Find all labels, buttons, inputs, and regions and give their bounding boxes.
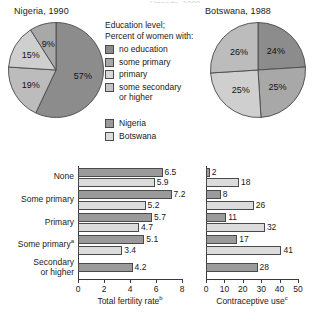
- total-fertility-rate-chart: 024686.55.9None7.25.2Some primary5.74.7P…: [0, 160, 190, 321]
- x-axis-tick: [78, 279, 79, 283]
- bar-value-label: 11: [228, 212, 237, 222]
- bar-value-label: 7.2: [174, 189, 186, 199]
- bar-nigeria: [206, 263, 258, 272]
- bar-value-label: 41: [283, 245, 292, 255]
- legend-item-some-secondary: some secondary or higher: [105, 82, 205, 102]
- swatch-some-secondary-icon: [105, 83, 114, 92]
- swatch-botswana-icon: [105, 132, 114, 141]
- figure-canvas: Uganda, 1988 Nigeria, 1990 Botswana, 198…: [0, 0, 322, 321]
- bar-nigeria: [206, 213, 226, 222]
- swatch-primary-icon: [105, 70, 114, 79]
- x-axis-title: Contraceptive usec: [216, 296, 288, 306]
- legend-item-no-education: no education: [105, 44, 205, 54]
- x-axis-title: Total fertility rateb: [97, 296, 162, 306]
- legend-heading: Education level; Percent of women with:: [105, 20, 205, 41]
- bar-value-label: 5.7: [154, 212, 166, 222]
- pie-slice-label: 24%: [267, 46, 285, 56]
- x-axis-tick-label: 4: [128, 284, 133, 294]
- bar-nigeria: [78, 213, 152, 222]
- x-axis-tick-label: 0: [204, 284, 209, 294]
- legend-label-some-primary: some primary: [119, 57, 170, 67]
- legend-heading-line1: Education level;: [105, 20, 205, 31]
- x-axis-tick: [206, 279, 207, 283]
- bar-nigeria: [206, 190, 221, 199]
- legend-label-primary: primary: [119, 69, 147, 79]
- bar-value-label: 4.7: [141, 222, 153, 232]
- botswana-pie-title: Botswana, 1988: [205, 6, 271, 16]
- bar-value-label: 5.1: [146, 234, 158, 244]
- x-axis-tick: [182, 279, 183, 283]
- botswana-pie-chart: 24%25%25%26%: [210, 22, 306, 118]
- x-axis-tick-label: 10: [220, 284, 229, 294]
- bar-value-label: 3.4: [124, 245, 136, 255]
- bar-nigeria: [78, 263, 133, 272]
- bar-botswana: [78, 201, 146, 210]
- bar-value-label: 6.5: [165, 167, 177, 177]
- nigeria-pie-title: Nigeria, 1990: [14, 6, 69, 16]
- bar-nigeria: [206, 168, 210, 177]
- bar-nigeria: [78, 190, 172, 199]
- legend-label-some-secondary: some secondary or higher: [119, 82, 191, 102]
- bar-botswana: [78, 246, 122, 255]
- category-label: None: [0, 172, 74, 182]
- bar-value-label: 17: [239, 234, 248, 244]
- category-label: Primary: [0, 218, 74, 228]
- bar-botswana: [78, 178, 155, 187]
- bar-value-label: 32: [267, 222, 276, 232]
- x-axis-tick-label: 6: [154, 284, 159, 294]
- bar-botswana: [206, 223, 265, 232]
- bar-nigeria: [78, 235, 144, 244]
- nigeria-pie-chart: 57%19%15%9%: [8, 22, 104, 118]
- bar-nigeria: [206, 235, 237, 244]
- pie-slice-label: 25%: [232, 85, 250, 95]
- x-axis-tick-label: 0: [76, 284, 81, 294]
- x-axis-tick: [261, 279, 262, 283]
- swatch-nigeria-icon: [105, 119, 114, 128]
- pie-slice-label: 9%: [42, 39, 55, 49]
- contraceptive-use-chart: 010203040502188261132174128Contraceptive…: [193, 160, 322, 321]
- legend-item-primary: primary: [105, 69, 205, 79]
- country-legend: Nigeria Botswana: [105, 118, 205, 143]
- x-axis-tick-label: 30: [256, 284, 265, 294]
- bar-value-label: 26: [256, 200, 265, 210]
- nigeria-pie-svg: [8, 22, 104, 118]
- bar-value-label: 5.9: [157, 177, 169, 187]
- bar-value-label: 5.2: [148, 200, 160, 210]
- x-axis-tick: [224, 279, 225, 283]
- x-axis-tick: [156, 279, 157, 283]
- legend-heading-line2: Percent of women with:: [105, 31, 205, 42]
- bar-botswana: [206, 178, 239, 187]
- legend-label-no-education: no education: [119, 44, 168, 54]
- bar-value-label: 8: [223, 189, 228, 199]
- x-axis-tick-label: 8: [180, 284, 185, 294]
- bar-botswana: [78, 223, 139, 232]
- pie-slice-label: 57%: [74, 71, 92, 81]
- x-axis-tick: [298, 279, 299, 283]
- x-axis-tick-label: 50: [293, 284, 302, 294]
- legend-item-some-primary: some primary: [105, 57, 205, 67]
- botswana-pie-svg: [210, 22, 306, 118]
- x-axis-tick-label: 2: [102, 284, 107, 294]
- bar-value-label: 18: [241, 177, 250, 187]
- bar-value-label: 2: [212, 167, 217, 177]
- legend-label-botswana: Botswana: [119, 131, 156, 141]
- category-label: Some primarya: [0, 240, 74, 250]
- x-axis-tick-label: 20: [238, 284, 247, 294]
- education-legend: Education level; Percent of women with: …: [105, 20, 205, 104]
- pie-slice-label: 15%: [22, 50, 40, 60]
- x-axis-tick-label: 40: [275, 284, 284, 294]
- x-axis-tick: [243, 279, 244, 283]
- pie-slice-label: 26%: [230, 47, 248, 57]
- cut-off-caption: Uganda, 1988: [150, 0, 270, 3]
- bar-botswana: [206, 201, 254, 210]
- bar-nigeria: [78, 168, 163, 177]
- legend-label-nigeria: Nigeria: [119, 118, 146, 128]
- x-axis-tick: [104, 279, 105, 283]
- pie-slice-label: 25%: [269, 82, 287, 92]
- legend-item-botswana: Botswana: [105, 131, 205, 141]
- bar-value-label: 4.2: [135, 262, 147, 272]
- bar-botswana: [206, 246, 281, 255]
- pie-slice-label: 19%: [22, 80, 40, 90]
- swatch-no-education-icon: [105, 45, 114, 54]
- x-axis-tick: [280, 279, 281, 283]
